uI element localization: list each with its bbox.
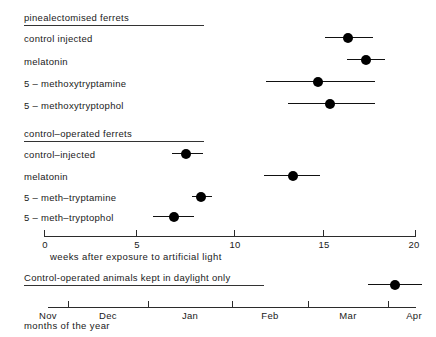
data-point-marker: [288, 171, 298, 181]
data-point-marker: [390, 280, 400, 290]
data-row: [0, 98, 436, 110]
data-point-marker: [361, 55, 371, 65]
months-axis-tick-2: [148, 301, 149, 308]
data-row: [0, 76, 436, 88]
weeks-axis-tick-10: [234, 230, 235, 237]
weeks-axis-line: [44, 236, 416, 237]
data-row: [0, 170, 436, 182]
months-axis-tick-1: [68, 301, 69, 308]
months-axis-tick-4: [308, 301, 309, 308]
data-point-marker: [343, 33, 353, 43]
month-label-mar: Mar: [339, 310, 356, 321]
data-row: [0, 211, 436, 223]
month-label-apr: Apr: [406, 310, 422, 321]
data-row: [0, 54, 436, 66]
months-axis-caption: months of the year: [24, 320, 110, 331]
month-label-jan: Jan: [182, 310, 198, 321]
weeks-axis-label-20: 20: [408, 239, 419, 250]
weeks-axis-label-15: 15: [318, 239, 329, 250]
weeks-axis-label-5: 5: [134, 239, 140, 250]
weeks-axis-tick-20: [415, 230, 416, 237]
data-row: [0, 32, 436, 44]
group-heading-control-operated: control–operated ferrets: [24, 128, 204, 142]
weeks-axis-label-0: 0: [42, 239, 48, 250]
weeks-axis-tick-5: [136, 230, 137, 237]
weeks-axis-tick-0: [44, 230, 45, 237]
month-label-feb: Feb: [261, 310, 278, 321]
months-axis-tick-3: [232, 301, 233, 308]
data-row: [0, 148, 436, 160]
data-point-marker: [196, 192, 206, 202]
data-row: [0, 191, 436, 203]
data-point-marker: [313, 77, 323, 87]
weeks-axis-label-10: 10: [229, 239, 240, 250]
weeks-axis-tick-15: [323, 230, 324, 237]
months-axis-tick-5: [388, 301, 389, 308]
data-point-marker: [169, 212, 179, 222]
data-point-marker: [325, 99, 335, 109]
group-heading-pinealectomised: pinealectomised ferrets: [24, 12, 204, 26]
data-point-marker: [181, 149, 191, 159]
data-row: [0, 279, 436, 291]
weeks-axis-caption: weeks after exposure to artificial light: [50, 251, 222, 262]
figure-panel: pinealectomised ferrets control injected…: [0, 0, 436, 337]
